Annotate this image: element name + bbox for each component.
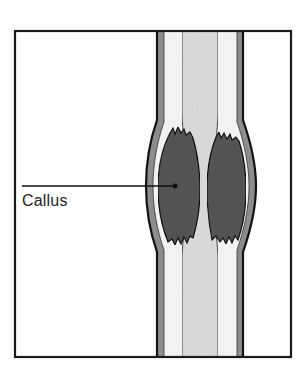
bone-fracture-callus-diagram <box>0 0 308 372</box>
callus-pointer-dot <box>173 184 178 189</box>
callus-label: Callus <box>22 192 68 210</box>
callus-right <box>207 132 246 244</box>
